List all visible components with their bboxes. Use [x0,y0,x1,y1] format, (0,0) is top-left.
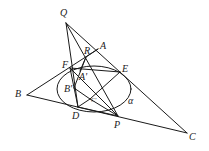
label-A: A [100,41,106,51]
label-B-prime: B' [64,84,72,94]
segment-ED [90,72,120,99]
label-P: P [114,120,120,130]
label-F: F [62,60,68,70]
label-C: C [189,132,196,142]
label-C-prime: C' [91,97,96,103]
segment-FP [70,68,118,116]
label-E: E [122,64,128,74]
geometry-diagram [0,0,209,151]
label-alpha: α [128,96,133,106]
label-R: R [84,46,90,56]
label-Q: Q [60,8,67,18]
label-B: B [15,89,21,99]
label-A-prime: A' [79,72,87,82]
label-D: D [72,111,79,121]
segment-ED2 [78,99,90,107]
